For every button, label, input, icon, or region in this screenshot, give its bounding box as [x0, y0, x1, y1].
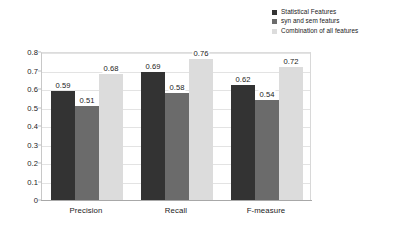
legend-item-2[interactable]: syn and sem featurs	[272, 18, 358, 24]
legend-swatch-icon	[272, 10, 277, 15]
y-axis-tick-label: 0	[4, 196, 38, 205]
bar-value-label: 0.62	[234, 75, 251, 84]
y-axis-tick-label: 0.1	[4, 177, 38, 186]
y-axis: 0.80.70.60.50.40.30.20.10	[0, 0, 38, 235]
bar-group-precision: 0.590.510.68	[51, 53, 123, 200]
x-axis-line	[41, 200, 312, 201]
x-axis-label-recall: Recall	[131, 206, 221, 215]
legend-item-3[interactable]: Combination of all features	[272, 28, 358, 34]
bar-value-label: 0.72	[282, 57, 299, 66]
y-axis-tick-label: 0.3	[4, 140, 38, 149]
bar-value-label: 0.68	[102, 64, 119, 73]
legend-label: Combination of all features	[281, 28, 358, 34]
bar[interactable]	[75, 106, 99, 200]
legend-label: Statistical Features	[281, 9, 336, 15]
bar-value-label: 0.59	[54, 81, 71, 90]
x-axis-label-precision: Precision	[41, 206, 131, 215]
bar[interactable]	[165, 93, 189, 200]
y-axis-tick-label: 0.8	[4, 48, 38, 57]
y-axis-tick-label: 0.4	[4, 122, 38, 131]
legend-swatch-icon	[272, 29, 277, 34]
bar-value-label: 0.54	[258, 90, 275, 99]
legend-swatch-icon	[272, 19, 277, 24]
bar-chart: Statistical Featuressyn and sem featursC…	[0, 0, 393, 235]
y-axis-tick-label: 0.2	[4, 159, 38, 168]
bar-value-label: 0.58	[168, 83, 185, 92]
bar[interactable]	[189, 59, 213, 200]
legend-item-1[interactable]: Statistical Features	[272, 9, 358, 15]
x-axis-label-f-measure: F-measure	[221, 206, 311, 215]
y-axis-tick-label: 0.7	[4, 66, 38, 75]
y-axis-tick-label: 0.6	[4, 85, 38, 94]
bar-group-recall: 0.690.580.76	[141, 53, 213, 200]
bar[interactable]	[99, 74, 123, 200]
bar-value-label: 0.51	[78, 96, 95, 105]
bar-group-f-measure: 0.620.540.72	[231, 53, 303, 200]
bar[interactable]	[141, 72, 165, 200]
bar[interactable]	[231, 85, 255, 200]
bar[interactable]	[51, 91, 75, 200]
bar-value-label: 0.69	[144, 62, 161, 71]
chart-legend: Statistical Featuressyn and sem featursC…	[272, 9, 358, 34]
bar[interactable]	[279, 67, 303, 200]
bar[interactable]	[255, 100, 279, 200]
bar-value-label: 0.76	[192, 49, 209, 58]
legend-label: syn and sem featurs	[281, 18, 340, 24]
y-axis-tick-label: 0.5	[4, 103, 38, 112]
plot-area: 0.590.510.680.690.580.760.620.540.72	[41, 52, 311, 200]
